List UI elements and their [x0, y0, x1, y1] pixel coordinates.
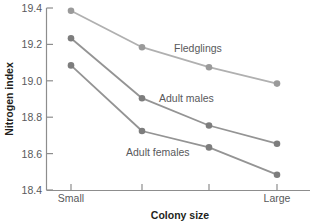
data-point [274, 80, 281, 87]
y-axis-title: Nitrogen index [3, 62, 15, 136]
series-label-adult-females: Adult females [126, 146, 190, 158]
y-tick-label-18-4: 18.4 [22, 184, 43, 196]
data-point [139, 95, 146, 102]
y-tick-label-18-8: 18.8 [22, 111, 43, 123]
y-tick-label-18-6: 18.6 [22, 148, 43, 160]
series-adult-females-line [71, 65, 277, 174]
chart-canvas: 19.4 19.2 19.0 18.8 18.6 18.4 Small Larg… [0, 0, 314, 223]
x-axis-ticks [71, 184, 277, 191]
y-axis-ticks [47, 8, 54, 190]
x-axis-title: Colony size [151, 209, 210, 221]
data-point [139, 128, 146, 135]
y-tick-label-19-0: 19.0 [22, 75, 43, 87]
y-tick-label-19-2: 19.2 [22, 38, 43, 50]
data-point [206, 64, 213, 71]
data-point [274, 140, 281, 147]
data-point [68, 8, 75, 15]
data-point [139, 44, 146, 51]
data-point [68, 62, 75, 69]
data-point [206, 144, 213, 151]
x-tick-label-small: Small [58, 192, 84, 204]
y-tick-label-19-4: 19.4 [22, 2, 43, 14]
data-point [274, 171, 281, 178]
series-adult-males-line [71, 38, 277, 144]
x-tick-label-large: Large [264, 192, 291, 204]
series-label-fledglings: Fledglings [174, 42, 222, 54]
data-point [206, 122, 213, 129]
data-point [68, 35, 75, 42]
series-label-adult-males: Adult males [159, 92, 214, 104]
nitrogen-index-line-chart: 19.4 19.2 19.0 18.8 18.6 18.4 Small Larg… [0, 0, 314, 223]
series-adult-females [68, 62, 281, 178]
